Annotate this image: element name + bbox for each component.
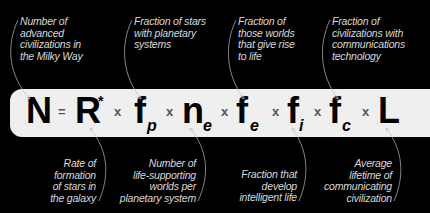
connector-arrows — [0, 0, 418, 213]
